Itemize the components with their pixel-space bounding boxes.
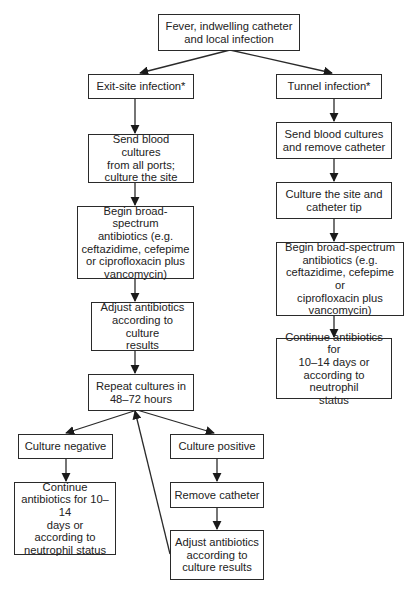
node-tunnel-culture-site: Culture the site and catheter tip [276,182,392,219]
node-remove-catheter: Remove catheter [170,482,264,508]
node-negative-continue-antibiotics: Continue antibiotics for 10–14 days or a… [14,482,116,555]
node-culture-negative: Culture negative [18,434,113,459]
node-exit-begin-antibiotics: Begin broad-spectrum antibiotics (e.g. c… [77,206,194,279]
node-repeat-cultures: Repeat cultures in 48–72 hours [88,374,194,411]
node-exit-site-infection: Exit-site infection* [88,74,194,99]
node-negative-continue-label: Continue antibiotics for 10–14 days or a… [18,481,112,557]
arrow-start-to-exit-site [140,50,230,73]
node-tunnel-begin-antibiotics: Begin broad-spectrum antibiotics (e.g. c… [276,242,404,316]
arrow-repeat-to-negative [66,410,137,433]
node-positive-adjust-label: Adjust antibiotics according to culture … [175,536,259,574]
node-exit-send-cultures: Send blood cultures from all ports; cult… [88,134,194,183]
node-start-label: Fever, indwelling catheter and local inf… [166,20,293,45]
node-tunnel-begin-antibiotics-label: Begin broad-spectrum antibiotics (e.g. c… [280,241,400,317]
arrow-start-to-tunnel [230,50,332,73]
node-tunnel-send-cultures: Send blood cultures and remove catheter [276,122,392,159]
node-tunnel-culture-site-label: Culture the site and catheter tip [285,188,382,213]
node-exit-adjust-antibiotics-label: Adjust antibiotics according to culture … [95,301,190,351]
arrow-repeat-to-positive [137,410,214,433]
node-exit-adjust-antibiotics: Adjust antibiotics according to culture … [91,302,194,351]
node-remove-catheter-label: Remove catheter [174,489,259,502]
node-tunnel-continue-antibiotics: Continue antibiotics for 10–14 days or a… [276,338,392,399]
node-start: Fever, indwelling catheter and local inf… [158,14,300,51]
node-culture-positive: Culture positive [170,434,264,459]
node-positive-adjust-antibiotics: Adjust antibiotics according to culture … [170,530,264,580]
node-exit-begin-antibiotics-label: Begin broad-spectrum antibiotics (e.g. c… [81,205,190,281]
node-culture-negative-label: Culture negative [25,440,106,453]
arrow-adjust-back-to-repeat [135,411,170,554]
node-tunnel-infection: Tunnel infection* [276,74,382,99]
node-tunnel-send-cultures-label: Send blood cultures and remove catheter [283,128,386,153]
node-exit-site-label: Exit-site infection* [97,80,186,93]
node-exit-send-cultures-label: Send blood cultures from all ports; cult… [92,133,190,183]
node-culture-positive-label: Culture positive [178,440,255,453]
node-tunnel-continue-label: Continue antibiotics for 10–14 days or a… [280,331,388,407]
node-repeat-cultures-label: Repeat cultures in 48–72 hours [96,380,186,405]
node-tunnel-label: Tunnel infection* [288,80,371,93]
